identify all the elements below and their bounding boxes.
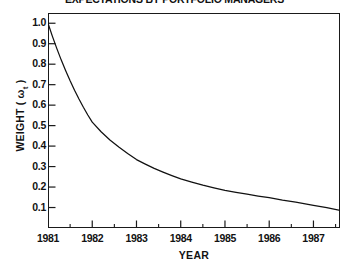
- x-tick-label: 1984: [161, 232, 201, 244]
- x-axis-major-ticks: [48, 221, 313, 229]
- omega-subscript: t: [21, 86, 30, 89]
- weight-decay-curve: [48, 23, 340, 210]
- y-axis-title-prefix: WEIGHT (: [14, 98, 26, 151]
- y-axis-ticks: [48, 23, 56, 207]
- y-axis-title: WEIGHT ( ωt ): [14, 56, 29, 176]
- omega-symbol: ω: [14, 89, 26, 98]
- x-tick-label: 1987: [293, 232, 333, 244]
- y-tick-label: 0.2: [16, 180, 46, 192]
- chart-figure: EXPECTATIONS BY PORTFOLIO MANAGERS 0.10.…: [0, 0, 349, 268]
- x-tick-label: 1986: [249, 232, 289, 244]
- x-tick-label: 1985: [205, 232, 245, 244]
- chart-title: EXPECTATIONS BY PORTFOLIO MANAGERS: [0, 0, 349, 5]
- y-tick-label: 1.0: [16, 16, 46, 28]
- chart-title-clip: EXPECTATIONS BY PORTFOLIO MANAGERS: [0, 0, 349, 9]
- y-tick-label: 0.9: [16, 37, 46, 49]
- x-axis-title: YEAR: [48, 249, 340, 261]
- y-tick-label: 0.1: [16, 201, 46, 213]
- x-tick-label: 1982: [72, 232, 112, 244]
- plot-canvas: [48, 13, 340, 228]
- x-axis-minor-ticks: [70, 224, 335, 228]
- y-axis-title-suffix: ): [14, 80, 26, 87]
- x-tick-label: 1981: [28, 232, 68, 244]
- x-tick-label: 1983: [116, 232, 156, 244]
